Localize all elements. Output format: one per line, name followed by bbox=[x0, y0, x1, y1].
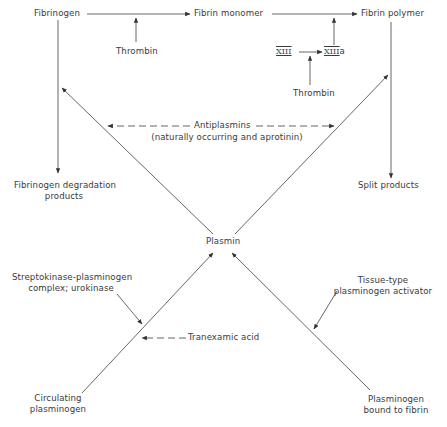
factor-xiiia-numeral: XIII bbox=[324, 47, 340, 56]
label-circulating-line1: Circulating bbox=[28, 393, 88, 404]
label-tranexamic-acid: Tranexamic acid bbox=[188, 332, 259, 343]
factor-xiii-numeral: XIII bbox=[276, 47, 292, 56]
label-tpa: Tissue-type plasminogen activator bbox=[330, 275, 436, 297]
label-bound-line2: bound to fibrin bbox=[356, 405, 436, 416]
label-tpa-line2: plasminogen activator bbox=[330, 286, 436, 297]
label-fibrin-monomer: Fibrin monomer bbox=[194, 8, 263, 19]
label-thrombin-2: Thrombin bbox=[293, 88, 335, 99]
label-split-products: Split products bbox=[358, 180, 419, 191]
label-fdp-line2: products bbox=[14, 191, 114, 202]
arrow-bound-to-plasmin bbox=[232, 253, 370, 390]
label-plasminogen-bound: Plasminogen bound to fibrin bbox=[356, 394, 436, 416]
label-thrombin-1: Thrombin bbox=[116, 46, 158, 57]
label-circulating-line2: plasminogen bbox=[28, 404, 88, 415]
label-tpa-line1: Tissue-type bbox=[330, 275, 436, 286]
label-factor-xiiia: XIIIa bbox=[324, 46, 345, 57]
label-circulating-plasminogen: Circulating plasminogen bbox=[28, 393, 88, 415]
label-antiplasmins-detail: (naturally occurring and aprotinin) bbox=[142, 132, 312, 143]
label-antiplasmins: Antiplasmins bbox=[194, 120, 251, 131]
label-streptokinase-line1: Streptokinase-plasminogen bbox=[12, 272, 130, 283]
arrow-plasmin-to-fibrinogen bbox=[62, 88, 213, 234]
label-streptokinase-line2: complex; urokinase bbox=[12, 283, 130, 294]
label-streptokinase: Streptokinase-plasminogen complex; uroki… bbox=[12, 272, 130, 294]
label-plasmin: Plasmin bbox=[206, 236, 240, 247]
label-bound-line1: Plasminogen bbox=[356, 394, 436, 405]
label-fibrinogen: Fibrinogen bbox=[34, 8, 80, 19]
label-fibrin-polymer: Fibrin polymer bbox=[361, 8, 424, 19]
diagram-connectors bbox=[0, 0, 447, 427]
label-fdp: Fibrinogen degradation products bbox=[14, 180, 114, 202]
label-fdp-line1: Fibrinogen degradation bbox=[14, 180, 114, 191]
label-factor-xiii: XIII bbox=[276, 46, 292, 57]
factor-xiiia-suffix: a bbox=[340, 46, 345, 56]
arrow-streptokinase bbox=[117, 294, 142, 324]
fibrinolysis-diagram: Fibrinogen Fibrin monomer Fibrin polymer… bbox=[0, 0, 447, 427]
